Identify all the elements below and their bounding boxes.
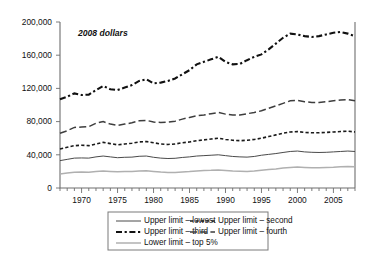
legend-label-third: Upper limit – third [144, 227, 209, 236]
x-tick-label: 1975 [108, 195, 127, 205]
chart-axes [60, 22, 355, 188]
y-tick-label: 40,000 [26, 150, 52, 160]
x-tick-label: 1995 [252, 195, 271, 205]
legend-label-fourth: Upper limit – fourth [218, 227, 288, 236]
series-line-second [60, 131, 355, 149]
chart-canvas: 040,00080,000120,000160,000200,000197019… [0, 0, 368, 260]
legend-label-top5: Lower limit – top 5% [144, 238, 218, 247]
x-tick-label: 1970 [72, 195, 91, 205]
legend-label-lowest: Upper limit – lowest [144, 216, 216, 225]
x-tick-label: 2005 [324, 195, 343, 205]
y-tick-label: 0 [47, 183, 52, 193]
y-tick-label: 80,000 [26, 116, 52, 126]
series-line-third [60, 32, 355, 99]
series-line-top5 [60, 167, 355, 174]
series-line-fourth [60, 100, 355, 134]
y-tick-label: 160,000 [22, 50, 53, 60]
units-annotation: 2008 dollars [77, 28, 128, 38]
income-limits-chart: 040,00080,000120,000160,000200,000197019… [0, 0, 368, 260]
x-tick-label: 1990 [216, 195, 235, 205]
legend-label-second: Upper limit – second [218, 216, 293, 225]
x-tick-label: 2000 [288, 195, 307, 205]
x-tick-label: 1980 [144, 195, 163, 205]
y-tick-label: 200,000 [22, 17, 53, 27]
x-tick-label: 1985 [180, 195, 199, 205]
y-tick-label: 120,000 [22, 83, 53, 93]
series-line-lowest [60, 151, 355, 161]
